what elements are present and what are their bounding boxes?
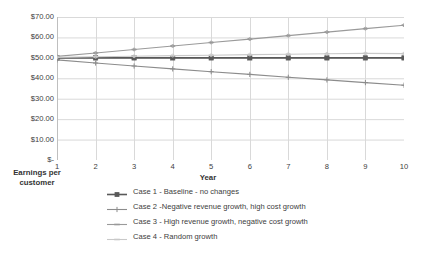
x-axis-tick-label: 5 [199,163,223,171]
legend-item[interactable]: Case 2 -Negative revenue growth, high co… [106,199,406,214]
x-axis-tick-label: 4 [161,163,185,171]
y-axis-title: Earnings per customer [0,168,76,188]
chart-container: $70.00$60.00$50.00$40.00$30.00$20.00$10.… [0,0,422,259]
legend-marker-icon [106,186,128,197]
x-axis-tick-label: 2 [84,163,108,171]
legend-item[interactable]: Case 3 - High revenue growth, negative c… [106,214,406,229]
legend-item[interactable]: Case 1 - Baseline - no changes [106,184,406,199]
legend-item-label: Case 4 - Random growth [133,232,217,241]
legend-marker-icon [106,231,128,242]
legend-marker-icon [106,216,128,227]
legend-item-label: Case 2 -Negative revenue growth, high co… [133,202,306,211]
y-axis-title-line-2: customer [0,178,76,188]
x-axis-tick-label: 6 [238,163,262,171]
y-axis-title-line-1: Earnings per [0,168,76,178]
x-axis-tick-label: 10 [392,163,416,171]
legend-item-label: Case 3 - High revenue growth, negative c… [133,217,308,226]
x-axis-tick-label: 7 [276,163,300,171]
x-axis-tick-label: 8 [315,163,339,171]
legend-item-label: Case 1 - Baseline - no changes [133,187,239,196]
x-axis-tick-label: 3 [122,163,146,171]
legend-marker-icon [106,201,128,212]
chart-legend: Case 1 - Baseline - no changesCase 2 -Ne… [106,184,406,244]
legend-item[interactable]: Case 4 - Random growth [106,229,406,244]
x-axis-title: Year [168,173,248,182]
x-axis-tick-label: 9 [353,163,377,171]
